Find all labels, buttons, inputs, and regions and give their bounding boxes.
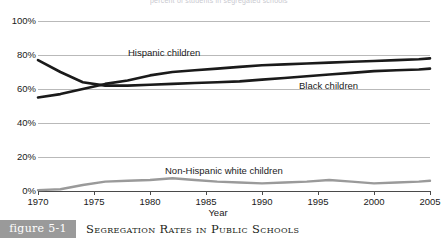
- series-label-hispanic: Hispanic children: [128, 47, 200, 58]
- x-tick-label-1995: 1995: [307, 196, 328, 207]
- y-tick-label-20: 20%: [2, 152, 36, 162]
- x-tick-1990: [262, 191, 263, 195]
- x-tick-label-1970: 1970: [27, 196, 48, 207]
- series-label-white: Non-Hispanic white children: [165, 165, 283, 176]
- x-tick-2005: [430, 191, 431, 195]
- x-tick-1980: [150, 191, 151, 195]
- y-tick-label-60: 60%: [2, 84, 36, 94]
- x-tick-label-1990: 1990: [251, 196, 272, 207]
- figure-caption-row: figure 5-1 Segregation Rates in Public S…: [0, 220, 436, 238]
- x-tick-1975: [94, 191, 95, 195]
- x-tick-label-2005: 2005: [419, 196, 440, 207]
- figure-caption-text: Segregation Rates in Public Schools: [86, 220, 299, 238]
- y-axis-labels: 0%20%40%60%80%100%: [0, 21, 36, 191]
- chart-canvas: 0%20%40%60%80%100% 197019751980198519901…: [0, 0, 436, 215]
- x-tick-label-1975: 1975: [83, 196, 104, 207]
- x-tick-label-2000: 2000: [363, 196, 384, 207]
- figure-number-tag: figure 5-1: [0, 220, 76, 238]
- series-line-hispanic-children: [38, 58, 430, 97]
- x-tick-1995: [318, 191, 319, 195]
- y-tick-label-40: 40%: [2, 118, 36, 128]
- x-tick-1985: [206, 191, 207, 195]
- series-label-black: Black children: [299, 80, 358, 91]
- y-tick-label-80: 80%: [2, 50, 36, 60]
- x-axis-title: Year: [0, 207, 436, 218]
- series-line-black-children: [38, 60, 430, 86]
- y-tick-label-100: 100%: [2, 16, 36, 26]
- y-tick-label-0: 0%: [2, 186, 36, 196]
- x-tick-label-1985: 1985: [195, 196, 216, 207]
- series-line-non-hispanic-white-children: [38, 178, 430, 190]
- x-tick-label-1980: 1980: [139, 196, 160, 207]
- x-tick-1970: [38, 191, 39, 195]
- x-tick-2000: [374, 191, 375, 195]
